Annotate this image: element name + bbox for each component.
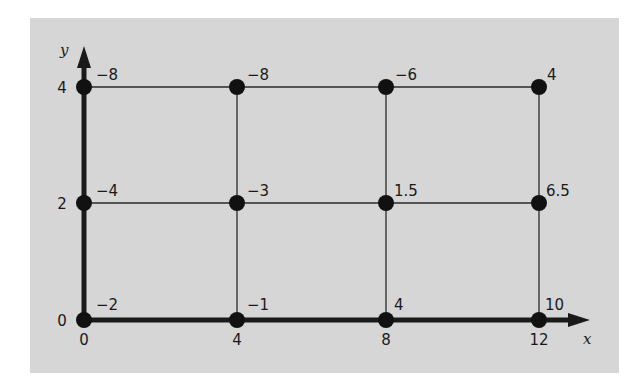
y-tick-0: 0	[57, 312, 67, 330]
y-axis-label: y	[59, 41, 69, 59]
x-tick-8: 8	[381, 331, 391, 349]
node-value: 4	[394, 296, 404, 314]
x-tick-12: 12	[529, 331, 548, 349]
grid-diagram: x y 0 4 8 12 0 2 4 −8 −8 −6 4 −4 −3 1.5 …	[0, 0, 644, 387]
node-dot	[229, 79, 245, 95]
node-value: −4	[96, 182, 118, 200]
x-tick-4: 4	[232, 331, 242, 349]
node-dot	[229, 195, 245, 211]
node-value: −2	[96, 296, 118, 314]
node-value: 6.5	[546, 182, 570, 200]
x-axis-label: x	[583, 330, 592, 348]
x-axis-arrow-icon	[568, 313, 590, 327]
node-dot	[378, 79, 394, 95]
node-value: −8	[247, 66, 269, 84]
node-value: 4	[547, 66, 557, 84]
y-tick-4: 4	[57, 79, 67, 97]
node-value: −1	[247, 296, 269, 314]
node-dot	[229, 312, 245, 328]
node-dot	[531, 195, 547, 211]
axes	[84, 62, 572, 320]
node-dot	[76, 195, 92, 211]
node-value: −6	[395, 66, 417, 84]
grid-lines	[84, 87, 539, 320]
x-tick-0: 0	[79, 331, 89, 349]
node-value: −8	[96, 66, 118, 84]
node-value: 10	[545, 296, 564, 314]
node-value: −3	[247, 182, 269, 200]
node-dot	[531, 79, 547, 95]
node-dot	[76, 79, 92, 95]
y-axis-arrow-icon	[77, 46, 91, 68]
node-dot	[378, 312, 394, 328]
node-dot	[378, 195, 394, 211]
y-tick-2: 2	[57, 195, 67, 213]
node-dot	[76, 312, 92, 328]
node-value: 1.5	[394, 182, 418, 200]
node-dot	[531, 312, 547, 328]
